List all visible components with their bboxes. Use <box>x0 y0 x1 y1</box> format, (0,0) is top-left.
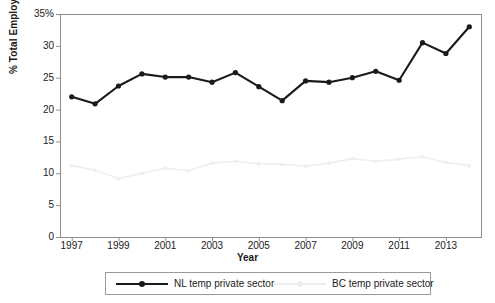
x-tick-label: 2001 <box>145 240 185 251</box>
series-marker <box>397 78 402 83</box>
series-marker <box>234 159 238 163</box>
x-tick-label: 1999 <box>98 240 138 251</box>
series-marker <box>420 40 425 45</box>
y-tick-label: 25 <box>12 73 54 83</box>
series-marker <box>256 84 261 89</box>
x-tick-label: 1997 <box>52 240 92 251</box>
x-tick-label: 2005 <box>239 240 279 251</box>
series-marker <box>397 157 401 161</box>
series-marker <box>327 161 331 165</box>
series-marker <box>257 162 261 166</box>
chart-figure: % Total Employed 05101520253035% 1997199… <box>0 0 495 303</box>
legend-item-label: NL temp private sector <box>174 278 274 289</box>
series-marker <box>187 169 191 173</box>
series-marker <box>303 78 308 83</box>
series-marker <box>443 51 448 56</box>
x-tick-label: 2003 <box>192 240 232 251</box>
series-marker <box>304 164 308 168</box>
series-line <box>72 157 470 179</box>
series-marker <box>93 168 97 172</box>
series-marker <box>186 74 191 79</box>
x-tick-label: 2009 <box>332 240 372 251</box>
series-marker <box>350 157 354 161</box>
y-tick-label: 10 <box>12 168 54 178</box>
y-tick-label: 15 <box>12 136 54 146</box>
y-tick-label: 35% <box>12 9 54 19</box>
series-marker <box>209 80 214 85</box>
x-axis-title: Year <box>0 252 495 263</box>
series-marker <box>280 98 285 103</box>
series-marker <box>140 171 144 175</box>
chart-legend: NL temp private sector BC temp private s… <box>105 272 431 295</box>
series-marker <box>350 75 355 80</box>
series-marker <box>374 159 378 163</box>
legend-item-label: BC temp private sector <box>332 278 434 289</box>
series-marker <box>92 101 97 106</box>
series-marker <box>69 94 74 99</box>
series-marker <box>117 176 121 180</box>
series-marker <box>467 164 471 168</box>
series-marker <box>163 74 168 79</box>
series-marker <box>116 83 121 88</box>
legend-line-marker-icon <box>274 278 326 290</box>
x-tick-label: 2007 <box>286 240 326 251</box>
series-marker <box>421 155 425 159</box>
y-tick-label: 5 <box>12 200 54 210</box>
y-tick-label: 0 <box>12 232 54 242</box>
series-marker <box>326 80 331 85</box>
x-tick-label: 2011 <box>379 240 419 251</box>
y-tick-label: 20 <box>12 105 54 115</box>
series-marker <box>373 69 378 74</box>
series-marker <box>444 161 448 165</box>
series-marker <box>280 162 284 166</box>
legend-item-nl[interactable]: NL temp private sector <box>116 273 274 294</box>
legend-item-bc[interactable]: BC temp private sector <box>274 273 434 294</box>
series-marker <box>70 164 74 168</box>
series-marker <box>210 161 214 165</box>
y-tick-label: 30 <box>12 41 54 51</box>
series-marker <box>139 71 144 76</box>
series-marker <box>467 24 472 29</box>
series-line <box>72 27 470 104</box>
series-marker <box>163 166 167 170</box>
series-marker <box>233 70 238 75</box>
legend-line-marker-icon <box>116 278 168 290</box>
x-tick-label: 2013 <box>426 240 466 251</box>
